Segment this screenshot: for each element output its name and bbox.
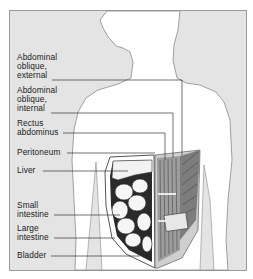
label-liver: Liver xyxy=(17,166,35,175)
label-peritoneum: Peritoneum xyxy=(17,148,60,157)
label-abdominal-oblique-external: Abdominal oblique, external xyxy=(17,53,57,81)
label-abdominal-oblique-internal: Abdominal oblique, internal xyxy=(17,86,57,114)
label-rectus-abdominus: Rectus abdominus xyxy=(17,119,59,137)
label-large-intestine: Large intestine xyxy=(17,224,49,242)
label-small-intestine: Small intestine xyxy=(17,201,49,219)
label-bladder: Bladder xyxy=(17,251,46,260)
